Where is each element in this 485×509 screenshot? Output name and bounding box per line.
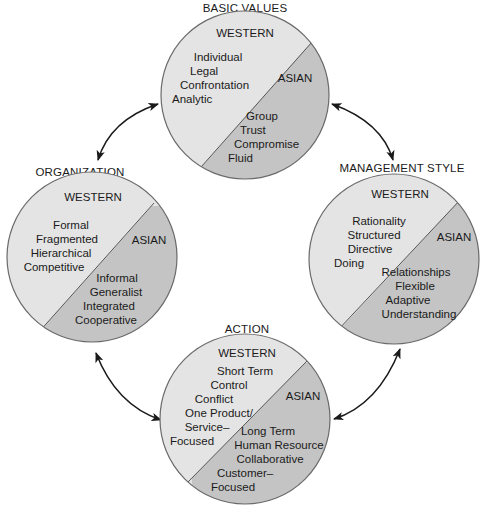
asian-item: Compromise: [234, 138, 299, 150]
asian-item: Group: [246, 110, 278, 122]
western-item: Analytic: [172, 93, 213, 105]
arrow-management-style-action: [334, 349, 400, 419]
western-item: Formal: [53, 219, 89, 231]
circle-management-style: MANAGEMENT STYLE WESTERN Rationality Str…: [300, 162, 485, 355]
asian-item: Collaborative: [236, 453, 303, 465]
western-item: Individual: [194, 51, 243, 63]
circle-action: ACTION WESTERN Short Term Control Confli…: [150, 323, 350, 509]
asian-header: ASIAN: [132, 234, 167, 246]
western-item: Service–: [185, 421, 230, 433]
western-item: Short Term: [217, 365, 273, 377]
western-vs-asian-diagram: BASIC VALUES WESTERN Individual Legal Co…: [0, 0, 485, 509]
asian-header: ASIAN: [286, 390, 321, 402]
circle-organization: ORGANIZATION WESTERN Formal Fragmented H…: [0, 165, 185, 350]
western-item: Doing: [334, 257, 364, 269]
asian-item: Generalist: [90, 286, 143, 298]
asian-item: Flexible: [395, 280, 435, 292]
circle-basic-values: BASIC VALUES WESTERN Individual Legal Co…: [150, 0, 350, 190]
asian-item: Relationships: [381, 266, 450, 278]
asian-item: Adaptive: [386, 294, 431, 306]
asian-item: Trust: [240, 124, 267, 136]
asian-item: Customer–: [217, 467, 274, 479]
western-header: WESTERN: [216, 27, 274, 39]
asian-item: Cooperative: [75, 314, 137, 326]
asian-item: Understanding: [382, 308, 457, 320]
asian-header: ASIAN: [437, 231, 472, 243]
western-header: WESTERN: [64, 191, 122, 203]
western-item: Rationality: [352, 215, 406, 227]
asian-header: ASIAN: [278, 72, 313, 84]
asian-item: Integrated: [83, 300, 135, 312]
western-item: Hierarchical: [31, 247, 92, 259]
western-item: Legal: [190, 65, 218, 77]
western-item: Focused: [170, 435, 214, 447]
western-item: One Product/: [185, 407, 254, 419]
western-item: Confrontation: [180, 79, 249, 91]
asian-item: Human Resource: [234, 439, 323, 451]
circle-title: MANAGEMENT STYLE: [339, 162, 464, 174]
western-item: Control: [210, 379, 247, 391]
western-item: Directive: [348, 243, 393, 255]
circle-title: ACTION: [225, 323, 270, 335]
arrow-basic-values-management-style: [332, 104, 393, 160]
western-item: Competitive: [24, 261, 85, 273]
arrow-organization-action: [96, 353, 161, 420]
asian-item: Focused: [211, 481, 255, 493]
western-header: WESTERN: [371, 188, 429, 200]
western-header: WESTERN: [218, 347, 276, 359]
asian-item: Fluid: [228, 152, 253, 164]
western-item: Conflict: [195, 393, 234, 405]
arrow-basic-values-organization: [98, 104, 158, 160]
asian-item: Informal: [96, 272, 138, 284]
western-item: Structured: [347, 229, 400, 241]
asian-item: Long Term: [241, 425, 295, 437]
western-item: Fragmented: [36, 233, 98, 245]
